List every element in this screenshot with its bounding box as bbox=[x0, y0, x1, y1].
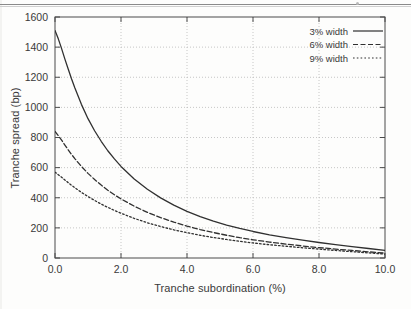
series-line-6-width bbox=[55, 131, 385, 253]
y-tick-label: 1000 bbox=[25, 101, 49, 113]
y-tick-label: 0 bbox=[42, 252, 48, 264]
x-tick-label: 10.0 bbox=[375, 263, 396, 275]
x-axis-title: Tranche subordination (%) bbox=[154, 282, 286, 294]
y-tick-label: 1600 bbox=[25, 11, 49, 23]
y-tick-labels: 02004006008001000120014001600 bbox=[25, 11, 49, 264]
x-tick-labels: 0.02.04.06.08.010.0 bbox=[48, 263, 396, 275]
tranche-spread-chart: 02004006008001000120014001600 0.02.04.06… bbox=[0, 0, 411, 309]
y-tick-label: 1400 bbox=[25, 41, 49, 53]
x-tick-label: 6.0 bbox=[246, 263, 261, 275]
series-line-3-width bbox=[55, 31, 385, 251]
y-tick-label: 600 bbox=[30, 161, 48, 173]
figure-root: 02004006008001000120014001600 0.02.04.06… bbox=[0, 0, 411, 309]
y-tick-label: 800 bbox=[30, 131, 48, 143]
y-tick-label: 1200 bbox=[25, 71, 49, 83]
y-tick-label: 400 bbox=[30, 192, 48, 204]
y-tick-label: 200 bbox=[30, 222, 48, 234]
legend: 3% width6% width9% width bbox=[309, 26, 383, 64]
legend-label-3-width: 3% width bbox=[309, 26, 348, 37]
y-axis-title: Tranche spread (bp) bbox=[9, 87, 21, 188]
x-tick-label: 0.0 bbox=[48, 263, 63, 275]
series-line-9-width bbox=[55, 172, 385, 254]
x-tick-label: 4.0 bbox=[180, 263, 195, 275]
data-series-group bbox=[55, 31, 385, 255]
x-tick-label: 2.0 bbox=[114, 263, 129, 275]
legend-label-9-width: 9% width bbox=[309, 53, 348, 64]
x-tick-label: 8.0 bbox=[312, 263, 327, 275]
legend-label-6-width: 6% width bbox=[309, 39, 348, 50]
